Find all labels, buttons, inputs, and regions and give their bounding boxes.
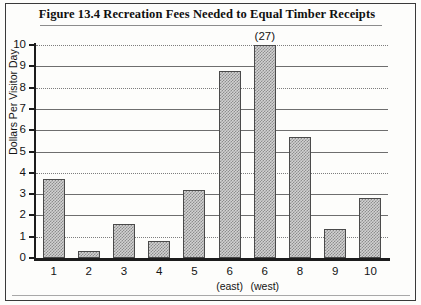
gridline [36,173,388,174]
x-axis-tick-label: 5 [174,266,214,278]
y-axis-tick-label: 2 [2,209,26,221]
x-axis-tick-label: 3 [104,266,144,278]
gridline [36,66,388,67]
y-axis-tick [29,129,35,131]
plot-area [36,45,388,258]
gridline [36,152,388,153]
y-axis-tick [29,65,35,67]
y-axis-tick-label: 3 [2,188,26,200]
y-axis-tick [29,108,35,110]
x-axis-tick-label: 6 [245,266,285,278]
y-axis-tick-label: 5 [2,146,26,158]
y-axis-tick-label: 7 [2,103,26,115]
y-axis-tick [29,151,35,153]
x-axis-tick-label: 2 [69,266,109,278]
y-axis-tick-label: 1 [2,231,26,243]
bar [254,45,276,258]
y-axis-tick-label: 4 [2,167,26,179]
x-axis-sublabel: (west) [239,281,291,292]
figure-title: Figure 13.4 Recreation Fees Needed to Eq… [12,7,402,22]
x-axis-tick-label: 8 [280,266,320,278]
gridline [36,194,388,195]
gridline [36,109,388,110]
y-axis-tick-label: 0 [2,252,26,264]
bar [289,137,311,258]
gridline [36,130,388,131]
y-axis-tick [29,44,35,46]
y-axis-tick-label: 9 [2,60,26,72]
gridline [36,88,388,89]
x-axis-tick-label: 9 [315,266,355,278]
bar [183,190,205,258]
bar [148,241,170,258]
y-axis-tick [29,257,35,259]
x-axis-tick-label: 4 [139,266,179,278]
y-axis-tick [29,172,35,174]
bar [219,71,241,258]
y-axis-tick [29,193,35,195]
x-axis-line [34,258,390,261]
bar [43,179,65,258]
bottom-divider [12,295,410,296]
y-axis-tick [29,87,35,89]
figure-container: Figure 13.4 Recreation Fees Needed to Eq… [0,0,421,305]
y-axis-tick-label: 6 [2,124,26,136]
gridline [36,45,388,46]
bar-value-annotation: (27) [245,31,285,43]
y-axis-tick-label: 8 [2,82,26,94]
gridline [36,215,388,216]
bar [324,229,346,258]
x-axis-tick-label: 6 [210,266,250,278]
y-axis-tick [29,214,35,216]
bar [113,224,135,258]
x-axis-tick-label: 1 [34,266,74,278]
y-axis-tick [29,236,35,238]
x-axis-tick-label: 10 [350,266,390,278]
y-axis-tick-label: 10 [2,39,26,51]
bar [359,198,381,258]
title-divider [40,25,382,26]
bar [78,251,100,258]
